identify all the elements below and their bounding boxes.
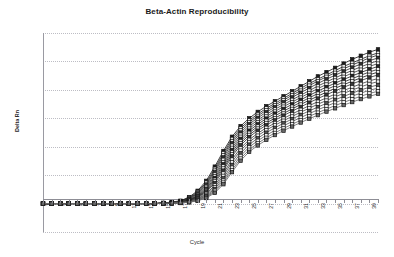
y-gridline: [43, 147, 378, 148]
x-tick: [232, 199, 233, 203]
x-axis-label: Cycle: [0, 239, 394, 245]
x-tick: [86, 199, 87, 203]
x-tick: [318, 199, 319, 203]
x-tick: [103, 199, 104, 203]
x-tick: [155, 199, 156, 203]
y-gridline: [43, 90, 378, 91]
x-tick-label: 23: [234, 203, 240, 209]
x-tick: [292, 199, 293, 203]
x-tick: [309, 199, 310, 203]
x-tick-label: 25: [251, 203, 257, 209]
x-tick: [129, 199, 130, 203]
x-tick: [301, 199, 302, 203]
x-tick: [361, 199, 362, 203]
x-tick: [335, 199, 336, 203]
x-tick-label: 5: [79, 203, 85, 206]
x-tick: [284, 199, 285, 203]
y-gridline: [43, 118, 378, 119]
x-tick: [241, 199, 242, 203]
x-tick: [112, 199, 113, 203]
x-tick: [206, 199, 207, 203]
x-tick-label: 13: [148, 203, 154, 209]
x-tick-label: 15: [165, 203, 171, 209]
x-tick: [378, 199, 379, 203]
x-tick: [215, 199, 216, 203]
x-tick: [189, 199, 190, 203]
x-tick-label: 27: [268, 203, 274, 209]
x-tick-label: 3: [62, 203, 68, 206]
x-tick: [198, 199, 199, 203]
y-gridline: [43, 33, 378, 34]
chart-title: Beta-Actin Reproducibility: [0, 7, 394, 16]
x-tick-label: 39: [371, 203, 377, 209]
x-tick-label: 9: [114, 203, 120, 206]
x-tick: [249, 199, 250, 203]
x-tick: [69, 199, 70, 203]
y-gridline: [43, 232, 378, 233]
y-axis-label: Delta Rn: [14, 91, 20, 151]
x-tick-label: 37: [354, 203, 360, 209]
x-tick: [344, 199, 345, 203]
x-tick-label: 29: [286, 203, 292, 209]
y-gridline: [43, 61, 378, 62]
x-tick-label: 35: [337, 203, 343, 209]
x-tick-label: 17: [182, 203, 188, 209]
x-tick: [52, 199, 53, 203]
x-tick-label: 31: [303, 203, 309, 209]
x-tick: [43, 199, 44, 203]
x-tick-label: 19: [200, 203, 206, 209]
chart-container: Beta-Actin Reproducibility Delta Rn 1.20…: [0, 0, 394, 257]
x-tick-label: 11: [131, 203, 137, 208]
x-tick: [258, 199, 259, 203]
y-gridline: [43, 204, 378, 205]
x-tick: [146, 199, 147, 203]
x-tick: [275, 199, 276, 203]
x-tick: [172, 199, 173, 203]
x-tick: [95, 199, 96, 203]
x-tick: [326, 199, 327, 203]
x-tick-label: 1: [45, 203, 51, 206]
x-axis-line: [43, 199, 378, 200]
x-tick: [223, 199, 224, 203]
y-gridline: [43, 175, 378, 176]
x-tick: [120, 199, 121, 203]
x-tick-label: 33: [320, 203, 326, 209]
plot-area: 1.201.000.800.600.400.200.00-0.20: [43, 33, 378, 232]
x-tick-label: 21: [217, 203, 223, 209]
x-tick: [137, 199, 138, 203]
x-tick-label: 7: [97, 203, 103, 206]
